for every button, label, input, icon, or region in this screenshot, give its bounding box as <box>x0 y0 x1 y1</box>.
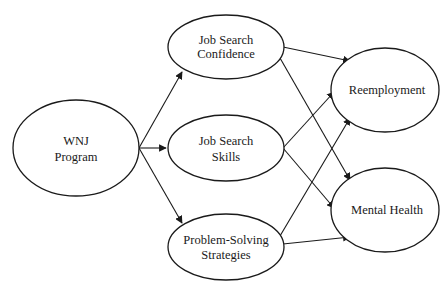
path-diagram: WNJ Program Job Search Confidence Job Se… <box>0 0 446 290</box>
node-label: Job Search <box>199 134 254 148</box>
edge-problem-to-mental <box>283 237 350 244</box>
node-wnj-program: WNJ Program <box>13 100 139 196</box>
node-label: Job Search <box>199 33 254 47</box>
node-mental-health: Mental Health <box>331 168 439 252</box>
node-label: Program <box>54 150 97 164</box>
node-label: Confidence <box>197 47 255 61</box>
node-label: Mental Health <box>351 203 424 217</box>
node-label: Strategies <box>201 248 250 262</box>
node-problem-solving-strategies: Problem-Solving Strategies <box>168 214 284 280</box>
node-job-search-skills: Job Search Skills <box>168 115 284 181</box>
node-label: Skills <box>212 150 241 164</box>
node-label: WNJ <box>63 134 89 148</box>
node-reemployment: Reemployment <box>331 48 439 132</box>
node-job-search-confidence: Job Search Confidence <box>168 15 284 79</box>
node-label: Problem-Solving <box>183 233 269 247</box>
edge-confidence-to-reemployment <box>283 47 350 61</box>
node-label: Reemployment <box>349 83 426 97</box>
